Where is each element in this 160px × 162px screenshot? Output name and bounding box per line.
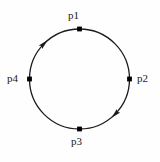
- node-label-p2: p2: [137, 73, 148, 84]
- cycle-diagram: p1 p2 p3 p4: [0, 0, 160, 162]
- node-marker-p3[interactable]: [77, 127, 82, 132]
- node-label-p1: p1: [68, 10, 79, 21]
- node-marker-p4[interactable]: [27, 77, 32, 82]
- node-label-p4: p4: [7, 73, 18, 84]
- node-marker-p1[interactable]: [77, 27, 82, 32]
- node-label-p3: p3: [71, 136, 82, 147]
- node-marker-p2[interactable]: [127, 77, 132, 82]
